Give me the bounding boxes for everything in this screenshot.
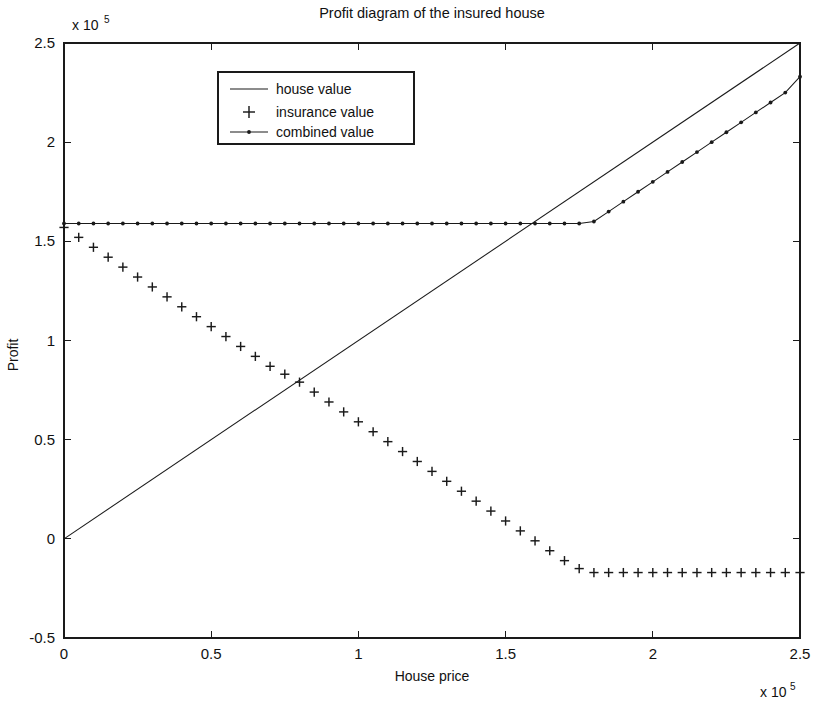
x-tick-label: 1 (354, 645, 362, 662)
series-marker (621, 200, 625, 204)
series-marker (265, 362, 274, 371)
series-marker (236, 342, 245, 351)
series-marker (121, 222, 125, 226)
y-tick-label: 2.5 (34, 34, 55, 51)
series-marker (224, 222, 228, 226)
series-marker (666, 170, 670, 174)
series-marker (207, 322, 216, 331)
series-marker (148, 282, 157, 291)
series-marker (739, 120, 743, 124)
series-marker (442, 477, 451, 486)
series-marker (177, 302, 186, 311)
series-marker (180, 222, 184, 226)
series-marker (474, 222, 478, 226)
series-marker (62, 222, 66, 226)
series-marker (533, 222, 537, 226)
series-marker (457, 487, 466, 496)
series-marker (106, 222, 110, 226)
series-marker (725, 130, 729, 134)
series-path (64, 77, 800, 224)
figure-canvas: Profit diagram of the insured house x 10… (0, 0, 822, 704)
series-marker (89, 243, 98, 252)
series-marker (516, 526, 525, 535)
data-series-layer (59, 43, 804, 577)
series-marker (427, 467, 436, 476)
series-marker (592, 220, 596, 224)
series-marker (136, 222, 140, 226)
series-path (64, 43, 800, 539)
series-marker (575, 564, 584, 573)
series-marker (162, 292, 171, 301)
series-marker (324, 397, 333, 406)
y-tick-label: -0.5 (29, 629, 55, 646)
series-marker (415, 222, 419, 226)
series-marker (548, 222, 552, 226)
series-marker (398, 447, 407, 456)
y-axis-ticks: -0.500.511.522.5 (29, 34, 800, 646)
series-marker (192, 312, 201, 321)
series-insurance-value (59, 223, 804, 577)
series-marker (460, 222, 464, 226)
series-marker (754, 111, 758, 115)
series-marker (298, 222, 302, 226)
x-axis-title: House price (395, 668, 470, 684)
series-marker (769, 101, 773, 105)
series-marker (118, 263, 127, 272)
series-marker (737, 568, 746, 577)
series-marker (312, 222, 316, 226)
series-marker (545, 546, 554, 555)
series-marker (636, 190, 640, 194)
series-marker (339, 407, 348, 416)
series-marker (577, 222, 581, 226)
series-marker (74, 233, 83, 242)
series-marker (504, 222, 508, 226)
series-marker (472, 497, 481, 506)
series-marker (619, 568, 628, 577)
series-marker (722, 568, 731, 577)
x-tick-label: 2.5 (790, 645, 811, 662)
series-marker (150, 222, 154, 226)
series-marker (165, 222, 169, 226)
series-marker (195, 222, 199, 226)
legend-dot-glyph (247, 130, 251, 134)
series-marker (651, 180, 655, 184)
chart-legend[interactable]: house value insurance value combined val… (218, 72, 414, 144)
series-marker (268, 222, 272, 226)
series-marker (369, 427, 378, 436)
series-marker (489, 222, 493, 226)
plot-frame (64, 43, 800, 638)
legend-label-combined-value: combined value (276, 124, 374, 140)
x-axis-exponent: x 10 5 (760, 681, 796, 700)
series-marker (678, 568, 687, 577)
y-exponent-base: x 10 (72, 17, 99, 33)
series-marker (104, 253, 113, 262)
series-marker (766, 568, 775, 577)
y-axis-title: Profit (5, 339, 21, 372)
series-marker (413, 457, 422, 466)
series-marker (209, 222, 213, 226)
series-marker (77, 222, 81, 226)
series-marker (401, 222, 405, 226)
series-marker (751, 568, 760, 577)
series-marker (501, 516, 510, 525)
series-marker (342, 222, 346, 226)
series-marker (692, 568, 701, 577)
x-tick-label: 2 (649, 645, 657, 662)
series-marker (486, 506, 495, 515)
series-marker (680, 160, 684, 164)
y-tick-label: 2 (47, 133, 55, 150)
series-marker (310, 387, 319, 396)
series-marker (707, 568, 716, 577)
y-axis-exponent: x 10 5 (72, 14, 110, 33)
y-tick-label: 1.5 (34, 232, 55, 249)
series-marker (589, 568, 598, 577)
y-tick-label: 0.5 (34, 431, 55, 448)
series-marker (795, 568, 804, 577)
series-marker (295, 378, 304, 387)
series-marker (445, 222, 449, 226)
series-marker (560, 556, 569, 565)
series-marker (283, 222, 287, 226)
series-marker (633, 568, 642, 577)
series-marker (253, 222, 257, 226)
series-marker (354, 417, 363, 426)
